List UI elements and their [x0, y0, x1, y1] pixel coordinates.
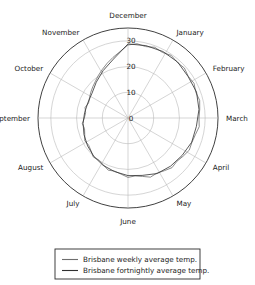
month-label-october: October [14, 64, 43, 73]
month-label-january: January [176, 28, 205, 37]
legend-label-0: Brisbane weekly average temp. [83, 255, 197, 264]
month-label-april: April [213, 163, 229, 172]
polar-chart-svg: 0102030 DecemberJanuaryFebruaryMarchApri… [0, 0, 255, 285]
month-label-august: August [18, 163, 43, 172]
legend-label-1: Brisbane fortnightly average temp. [83, 266, 209, 275]
month-label-june: June [119, 217, 136, 226]
radial-tick-30: 30 [126, 36, 136, 45]
radial-tick-20: 20 [126, 62, 136, 71]
polar-chart-figure: 0102030 DecemberJanuaryFebruaryMarchApri… [0, 0, 255, 285]
month-label-july: July [66, 199, 81, 208]
radial-tick-0: 0 [129, 114, 134, 123]
radial-tick-10: 10 [126, 88, 136, 97]
month-label-november: November [42, 28, 79, 37]
month-label-may: May [177, 199, 193, 208]
month-label-september: September [0, 114, 30, 123]
month-label-march: March [226, 114, 248, 123]
month-label-december: December [109, 11, 146, 20]
chart-legend: Brisbane weekly average temp.Brisbane fo… [55, 249, 209, 279]
month-label-february: February [213, 64, 246, 73]
